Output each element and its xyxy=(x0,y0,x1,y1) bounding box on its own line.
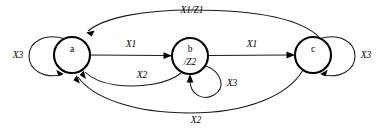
edge-label-c-self: X3 xyxy=(360,50,372,60)
state-node-a[interactable]: a xyxy=(54,37,90,73)
edge-c-to-a-bottom xyxy=(73,70,303,113)
state-label-b: b xyxy=(188,44,193,54)
edge-path-a-to-b xyxy=(90,55,166,56)
arrowhead-c-to-a-top xyxy=(86,31,94,37)
arrowhead-b-self-loop xyxy=(187,74,194,83)
state-node-b[interactable]: b /Z2 xyxy=(172,38,208,74)
edge-label-a-to-b: X1 xyxy=(125,39,137,49)
edge-label-b-to-c: X1 xyxy=(246,39,258,49)
state-output-b: /Z2 xyxy=(183,57,197,67)
edge-path-c-to-a-top xyxy=(88,10,320,38)
edge-label-b-to-a: X2 xyxy=(136,70,148,80)
edge-path-b-to-c xyxy=(208,55,289,56)
fsm-svg: a b /Z2 c X3 X1 X2 X3 X1 X3 X1/Z1 X2 xyxy=(0,0,382,131)
edge-path-b-to-a xyxy=(85,72,181,86)
edge-a-to-b xyxy=(90,52,172,59)
state-label-c: c xyxy=(311,44,315,54)
edge-label-b-self: X3 xyxy=(226,78,238,88)
arrowhead-c-to-a-bottom xyxy=(73,75,80,83)
arrowhead-a-to-b xyxy=(164,52,173,59)
state-diagram-canvas: a b /Z2 c X3 X1 X2 X3 X1 X3 X1/Z1 X2 xyxy=(0,0,382,131)
edge-label-a-self: X3 xyxy=(12,50,24,60)
edge-b-to-a xyxy=(80,71,181,86)
state-circle-a[interactable] xyxy=(54,37,90,73)
state-node-c[interactable]: c xyxy=(295,37,331,73)
edge-b-to-c xyxy=(208,52,295,59)
edge-label-c-to-a-top: X1/Z1 xyxy=(179,5,203,15)
state-circle-c[interactable] xyxy=(295,37,331,73)
edge-label-c-to-a-bottom: X2 xyxy=(190,115,202,125)
arrowhead-b-to-c xyxy=(287,52,296,59)
